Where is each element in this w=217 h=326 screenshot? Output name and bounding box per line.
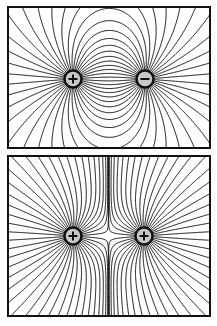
field-line (151, 192, 212, 230)
positive-charge-icon (65, 71, 82, 88)
field-line (77, 86, 141, 113)
field-line (6, 74, 64, 79)
field-line (6, 242, 67, 291)
field-line (80, 84, 138, 97)
field-line (82, 77, 137, 78)
field-line (81, 239, 106, 319)
like-charges-panel (5, 153, 212, 318)
field-line (6, 241, 66, 279)
field-line (6, 80, 64, 85)
field-line (77, 45, 141, 72)
field-line (147, 244, 193, 318)
positive-charge-icon (65, 228, 82, 245)
electric-field-lines-figure (0, 0, 217, 326)
field-line (154, 80, 212, 85)
field-line (81, 153, 106, 233)
field-line (131, 153, 140, 228)
field-line (145, 153, 170, 227)
field-line (6, 193, 66, 231)
field-line (147, 154, 193, 228)
field-line (47, 153, 72, 227)
field-line (24, 154, 70, 228)
field-line (135, 4, 150, 70)
field-line (77, 153, 86, 228)
field-lines (5, 153, 212, 318)
field-line (145, 245, 170, 319)
positive-charge-icon (136, 228, 153, 245)
opposite-charges-panel (5, 4, 212, 150)
field-line (82, 80, 137, 81)
field-line (146, 245, 181, 318)
field-line (111, 153, 136, 233)
field-line (6, 181, 67, 230)
field-line (150, 242, 212, 291)
field-line (151, 241, 212, 279)
field-line (75, 87, 144, 127)
field-line (80, 61, 138, 74)
field-lines (5, 4, 212, 150)
field-line (111, 239, 136, 319)
negative-charge-icon (137, 71, 154, 88)
field-line (146, 154, 181, 227)
field-line (75, 31, 144, 71)
field-line (154, 74, 212, 79)
field-line (24, 244, 70, 318)
field-line (131, 244, 140, 319)
field-line (47, 245, 72, 319)
field-line (77, 244, 86, 319)
field-line (37, 245, 72, 318)
field-line (150, 180, 212, 229)
field-line (37, 154, 72, 227)
